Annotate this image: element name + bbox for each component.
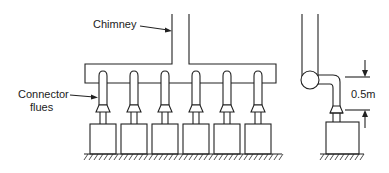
appliance [152,124,178,154]
appliance-right [326,122,359,154]
dimension-label: 0.5m [351,88,375,100]
dimension-0-5m: 0.5m [345,60,375,128]
chimney-arrow [140,26,172,33]
header-section-icon [301,71,319,89]
appliance [121,124,147,154]
connector-flue [251,71,265,124]
connector-flues-label-line2: flues [30,101,54,113]
connector-flues-label-line1: Connector [18,88,69,100]
appliances [90,124,271,154]
flue-diagram: Chimney Connector flues [0,0,389,173]
appliance [90,124,116,154]
connector-flues [96,71,265,124]
connector-flue [189,71,203,124]
right-assembly [301,14,364,160]
appliance [245,124,271,154]
connector-arrow [70,95,98,100]
connector-flue [96,71,110,124]
appliance [214,124,240,154]
connector-flue [127,71,141,124]
connector-flue [158,71,172,124]
chimney-label: Chimney [93,18,137,30]
appliance [183,124,209,154]
ground-left [84,154,283,160]
connector-flue [220,71,234,124]
